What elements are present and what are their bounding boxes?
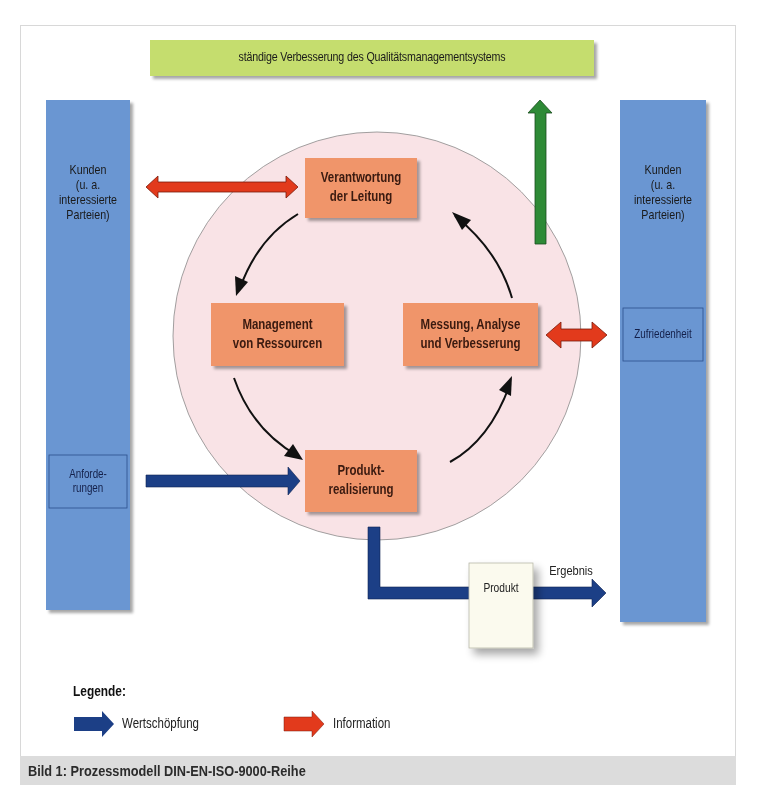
legend-value-label: Wertschöpfung xyxy=(122,715,199,731)
label-line: (u. a. xyxy=(49,177,128,192)
label-line: Parteien) xyxy=(624,207,703,222)
left-column-label: Kunden (u. a. interessierte Parteien) xyxy=(49,162,128,222)
label-line: Verantwortung xyxy=(311,168,411,187)
label-line: von Ressourcen xyxy=(218,334,337,353)
label-line: realisierung xyxy=(311,480,411,499)
label-line: Parteien) xyxy=(49,207,128,222)
legend-value-arrow-icon xyxy=(74,711,114,737)
label-line: rungen xyxy=(56,481,120,495)
label-line: Kunden xyxy=(49,162,128,177)
label-line: Kunden xyxy=(624,162,703,177)
legend-information-arrow-icon xyxy=(284,711,324,737)
label-line: Management xyxy=(218,315,337,334)
legend-information-label: Information xyxy=(333,715,390,731)
banner-label: ständige Verbesserung des Qualitätsmanag… xyxy=(190,49,554,64)
label-line: der Leitung xyxy=(311,187,411,206)
product-label: Produkt xyxy=(472,581,530,595)
label-line: (u. a. xyxy=(624,177,703,192)
label-line: Produkt- xyxy=(311,461,411,480)
product-box xyxy=(469,563,533,648)
result-label: Ergebnis xyxy=(545,563,598,578)
management-label: Management von Ressourcen xyxy=(218,315,337,353)
label-line: und Verbesserung xyxy=(409,334,533,353)
label-line: Anforde- xyxy=(56,467,120,481)
figure-caption: Bild 1: Prozessmodell DIN-EN-ISO-9000-Re… xyxy=(28,756,306,785)
satisfaction-label: Zufriedenheit xyxy=(627,327,699,341)
requirements-label: Anforde- rungen xyxy=(56,467,120,495)
label-line: interessierte xyxy=(49,192,128,207)
messung-label: Messung, Analyse und Verbesserung xyxy=(409,315,533,353)
verantwortung-label: Verantwortung der Leitung xyxy=(311,168,411,206)
legend-title: Legende: xyxy=(73,683,126,699)
label-line: Messung, Analyse xyxy=(409,315,533,334)
figure-caption-bar: Bild 1: Prozessmodell DIN-EN-ISO-9000-Re… xyxy=(20,756,736,785)
label-line: interessierte xyxy=(624,192,703,207)
produkt-label: Produkt- realisierung xyxy=(311,461,411,499)
right-column-label: Kunden (u. a. interessierte Parteien) xyxy=(624,162,703,222)
